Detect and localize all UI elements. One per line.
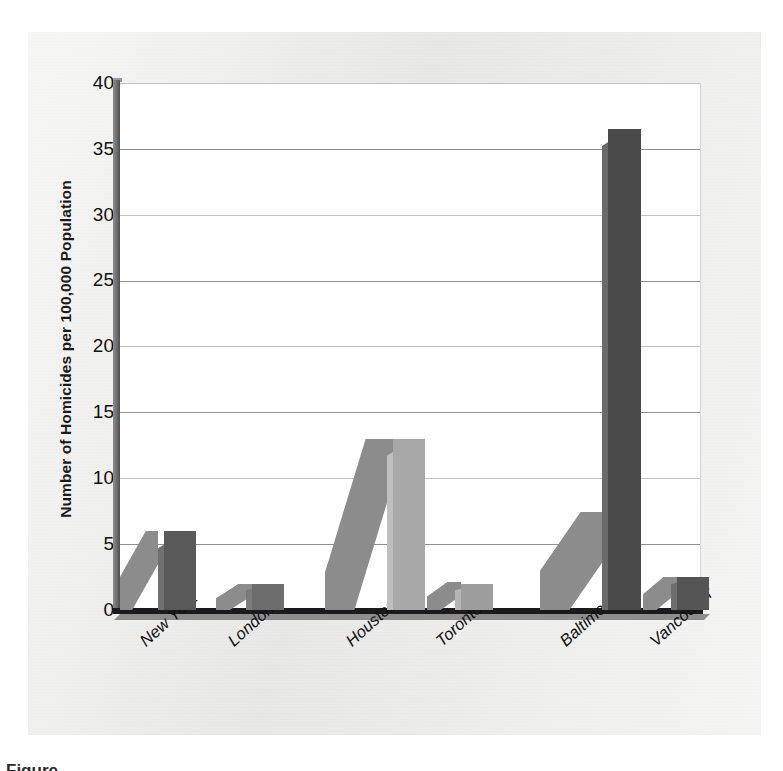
bar-group-new-york bbox=[120, 83, 230, 610]
y-tick-5: 5 bbox=[70, 534, 114, 553]
y-tick-15: 15 bbox=[70, 402, 114, 421]
y-tick-25: 25 bbox=[70, 270, 114, 289]
bar-front-baltimore bbox=[608, 129, 641, 610]
scanned-page: Number of Homicides per 100,000 Populati… bbox=[0, 0, 783, 771]
y-tick-10: 10 bbox=[70, 468, 114, 487]
plot-area bbox=[120, 83, 700, 610]
bar-front-new-york bbox=[164, 531, 196, 610]
bar-front-toronto bbox=[461, 584, 493, 610]
bar-group-london bbox=[216, 83, 326, 610]
bar-front-houston bbox=[393, 439, 425, 610]
y-tick-30: 30 bbox=[70, 205, 114, 224]
y-axis-tick-labels: 40 35 30 25 20 15 10 5 0 bbox=[62, 0, 114, 771]
caption-sliver: Figure bbox=[6, 762, 58, 771]
bar-shadow-houston bbox=[325, 439, 395, 610]
bar-group-toronto bbox=[427, 83, 537, 610]
y-tick-20: 20 bbox=[70, 336, 114, 355]
x-axis-spine-shadow bbox=[114, 614, 710, 620]
bar-group-vancouver bbox=[643, 83, 753, 610]
y-tick-0: 0 bbox=[70, 600, 114, 619]
bar-shadow-new-york bbox=[120, 531, 158, 610]
y-axis-spine bbox=[113, 80, 120, 613]
y-tick-40: 40 bbox=[70, 73, 114, 92]
bar-chart: Number of Homicides per 100,000 Populati… bbox=[0, 0, 783, 771]
bar-front-vancouver bbox=[677, 577, 709, 610]
y-tick-35: 35 bbox=[70, 139, 114, 158]
plot-right-edge bbox=[700, 83, 701, 610]
bar-front-london bbox=[252, 584, 284, 610]
bar-group-baltimore bbox=[540, 83, 660, 610]
